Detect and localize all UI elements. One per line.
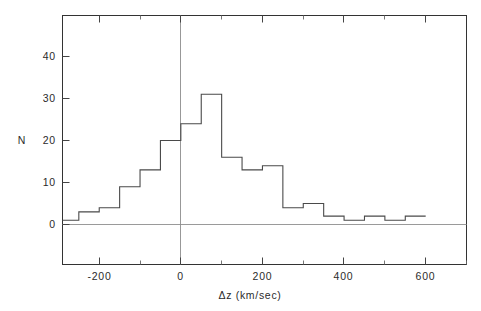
- histogram-figure: 0 10 20 30 40: [0, 0, 481, 311]
- y-tick-label-30: 30: [43, 92, 56, 104]
- x-tick-label-200: 200: [253, 270, 273, 282]
- x-tick-label-600: 600: [416, 270, 436, 282]
- y-tick-label-20: 20: [43, 134, 56, 146]
- x-tick-label-400: 400: [334, 270, 354, 282]
- x-tick-label-neg200: -200: [87, 270, 111, 282]
- y-tick-label-40: 40: [43, 50, 56, 62]
- y-tick-label-10: 10: [43, 176, 56, 188]
- x-axis-label: Δz (km/sec): [218, 289, 281, 301]
- y-axis-label: N: [18, 134, 26, 146]
- x-tick-label-0: 0: [177, 270, 184, 282]
- y-tick-label-0: 0: [49, 218, 56, 230]
- redshift-difference-histogram: 0 10 20 30 40: [0, 0, 481, 311]
